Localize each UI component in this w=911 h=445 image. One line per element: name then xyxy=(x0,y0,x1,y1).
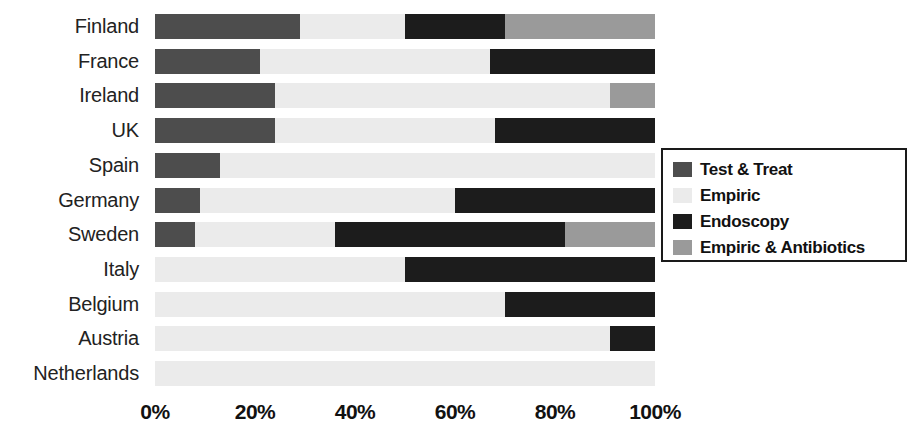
x-tick-label: 100% xyxy=(629,400,681,424)
category-label: UK xyxy=(0,118,147,143)
category-label: Netherlands xyxy=(0,361,147,386)
stacked-bar-chart: FinlandFranceIrelandUKSpainGermanySweden… xyxy=(0,0,911,445)
legend-swatch-icon xyxy=(673,188,692,203)
category-axis: FinlandFranceIrelandUKSpainGermanySweden… xyxy=(0,14,147,396)
bar-segment xyxy=(505,292,655,317)
legend-item[interactable]: Empiric xyxy=(673,183,905,208)
legend-label: Empiric xyxy=(700,186,760,206)
legend-swatch-icon xyxy=(673,214,692,229)
bar-segment xyxy=(505,14,655,39)
bar-segment xyxy=(155,118,275,143)
x-axis: 0%20%40%60%80%100% xyxy=(155,400,655,432)
legend-label: Empiric & Antibiotics xyxy=(700,238,865,258)
bar-row xyxy=(155,14,655,39)
category-label: Ireland xyxy=(0,83,147,108)
bar-segment xyxy=(565,222,655,247)
bar-segment xyxy=(495,118,655,143)
bar-segment xyxy=(300,14,405,39)
legend-label: Test & Treat xyxy=(700,160,792,180)
bar-segment xyxy=(155,222,195,247)
bar-row xyxy=(155,222,655,247)
bar-row xyxy=(155,257,655,282)
category-label: Italy xyxy=(0,257,147,282)
bar-segment xyxy=(335,222,565,247)
category-label: Belgium xyxy=(0,292,147,317)
bar-row xyxy=(155,361,655,386)
bar-segment xyxy=(195,222,335,247)
bar-segment xyxy=(155,49,260,74)
chart-legend: Test & TreatEmpiricEndoscopyEmpiric & An… xyxy=(661,148,907,262)
bar-row xyxy=(155,153,655,178)
bar-segment xyxy=(610,83,655,108)
bar-row xyxy=(155,49,655,74)
category-label: Finland xyxy=(0,14,147,39)
x-tick-label: 80% xyxy=(535,400,576,424)
bar-segment xyxy=(200,188,455,213)
legend-swatch-icon xyxy=(673,240,692,255)
category-label: Sweden xyxy=(0,222,147,247)
legend-label: Endoscopy xyxy=(700,212,789,232)
category-label: Spain xyxy=(0,153,147,178)
bar-segment xyxy=(610,326,655,351)
bar-segment xyxy=(275,118,495,143)
legend-item[interactable]: Empiric & Antibiotics xyxy=(673,235,905,260)
category-label: France xyxy=(0,49,147,74)
x-tick-label: 20% xyxy=(235,400,276,424)
bar-segment xyxy=(275,83,610,108)
bar-segment xyxy=(155,292,505,317)
bar-row xyxy=(155,118,655,143)
bar-segment xyxy=(155,361,655,386)
plot-area xyxy=(155,14,655,396)
bar-row xyxy=(155,83,655,108)
legend-swatch-icon xyxy=(673,162,692,177)
bar-segment xyxy=(405,257,655,282)
category-label: Austria xyxy=(0,326,147,351)
legend-item[interactable]: Test & Treat xyxy=(673,157,905,182)
bar-row xyxy=(155,292,655,317)
bar-row xyxy=(155,188,655,213)
bar-segment xyxy=(220,153,655,178)
bar-segment xyxy=(155,326,610,351)
bar-segment xyxy=(455,188,655,213)
bar-row xyxy=(155,326,655,351)
x-tick-label: 0% xyxy=(140,400,169,424)
bar-segment xyxy=(155,83,275,108)
bar-segment xyxy=(155,14,300,39)
bar-segment xyxy=(405,14,505,39)
bar-segment xyxy=(155,188,200,213)
legend-item[interactable]: Endoscopy xyxy=(673,209,905,234)
x-tick-label: 60% xyxy=(435,400,476,424)
bar-segment xyxy=(260,49,490,74)
category-label: Germany xyxy=(0,188,147,213)
x-tick-label: 40% xyxy=(335,400,376,424)
bar-segment xyxy=(155,153,220,178)
bar-segment xyxy=(155,257,405,282)
bar-segment xyxy=(490,49,655,74)
